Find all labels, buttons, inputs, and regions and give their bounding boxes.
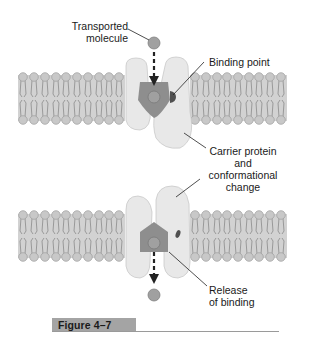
figure-rule-divider (52, 331, 279, 332)
upper-carrier-protein (126, 57, 192, 148)
label-line: of binding (209, 296, 255, 308)
label-line: molecule (58, 32, 128, 44)
label-binding-point: Binding point (209, 56, 270, 68)
figure-label: Figure 4–7 (58, 319, 112, 331)
label-text: Binding point (209, 56, 270, 68)
label-line: Transported (58, 20, 128, 32)
bound-molecule (148, 91, 160, 103)
label-line: Release (209, 284, 255, 296)
label-line: change (200, 181, 286, 193)
label-line: and (200, 157, 286, 169)
label-line: conformational (200, 169, 286, 181)
label-line: Carrier protein (200, 145, 286, 157)
label-carrier-protein: Carrier protein and conformational chang… (200, 145, 286, 193)
lower-carrier-protein (126, 186, 190, 278)
transported-molecule (148, 37, 160, 49)
label-release-of-binding: Release of binding (209, 284, 255, 308)
label-transported-molecule: Transported molecule (58, 20, 128, 44)
released-molecule (148, 289, 160, 301)
releasing-molecule (148, 237, 160, 249)
leader-transported-molecule (128, 29, 149, 40)
exit-arrow-head-icon (149, 274, 159, 284)
